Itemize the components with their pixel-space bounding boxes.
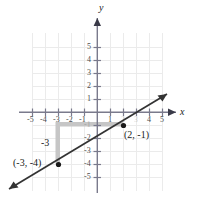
x-tick-label--3: -3 [53,116,60,124]
point-neg3-neg4 [56,162,61,167]
point-label-neg3-neg4: (-3, -4) [13,158,41,168]
rise-value-label: -3 [41,138,49,148]
x-tick-label-4: 4 [147,116,151,124]
y-tick-label--3: -3 [84,147,91,155]
x-tick-label-2: 2 [121,116,125,124]
x-tick-label-5: 5 [160,116,164,124]
x-tick-label--4: -4 [40,116,47,124]
y-tick-label-5: 5 [87,43,91,51]
axes [19,18,176,193]
x-axis-label: x [180,107,184,117]
y-tick-label-2: 2 [87,82,91,90]
x-tick-label-3: 3 [134,116,138,124]
x-tick-label-1: 1 [108,116,112,124]
x-tick-label--2: -2 [66,116,73,124]
y-tick-label--2: -2 [84,134,91,142]
y-tick-label--5: -5 [84,173,91,181]
x-tick-label--5: -5 [27,116,34,124]
axis-arrowheads [94,18,176,116]
y-tick-label--4: -4 [84,160,91,168]
y-tick-label-1: 1 [87,95,91,103]
coordinate-plane-svg [0,0,208,200]
y-tick-label--1: -1 [84,121,91,129]
point-label-2-neg1: (2, -1) [124,130,149,140]
graph-figure: -5 -4 -3 -2 -1 1 2 3 4 5 5 4 3 2 1 -1 -2… [0,0,208,200]
y-tick-label-4: 4 [87,56,91,64]
y-axis-label: y [99,3,103,13]
y-tick-label-3: 3 [87,69,91,77]
data-points [56,123,126,167]
